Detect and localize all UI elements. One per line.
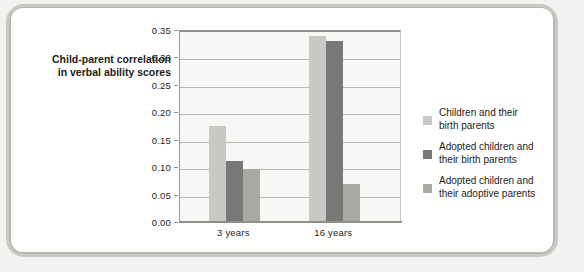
legend-label-line: their birth parents (439, 154, 534, 167)
gridline (180, 87, 400, 88)
bar (326, 41, 343, 222)
y-axis-tick-mark (174, 140, 178, 141)
x-axis-tick-label: 16 years (293, 227, 373, 238)
legend-label-line: Adopted children and (439, 175, 535, 188)
legend-item: Adopted children andtheir birth parents (423, 141, 555, 166)
bar (343, 184, 360, 222)
y-axis-tick-label: 0.10 (127, 162, 171, 173)
legend-swatch (423, 116, 432, 125)
y-axis-tick-mark (174, 167, 178, 168)
y-axis-tick-label: 0.20 (127, 107, 171, 118)
y-axis-tick-mark (174, 57, 178, 58)
bar (243, 169, 260, 222)
plot-area (179, 30, 401, 222)
y-axis-tick-mark (174, 30, 178, 31)
bar-group (209, 126, 260, 222)
x-axis-tick-label: 3 years (193, 227, 273, 238)
y-axis-tick-label: 0.30 (127, 52, 171, 63)
legend-swatch (423, 150, 432, 159)
y-axis-tick-label: 0.35 (127, 25, 171, 36)
y-axis-label-line-2: in verbal ability scores (25, 66, 171, 79)
y-axis-tick-mark (174, 195, 178, 196)
chart-legend: Children and theirbirth parentsAdopted c… (423, 107, 555, 209)
y-axis-tick-label: 0.25 (127, 79, 171, 90)
y-axis-tick-label: 0.00 (127, 217, 171, 228)
gridline (180, 59, 400, 60)
y-axis-tick-mark (174, 112, 178, 113)
x-axis-line (179, 221, 402, 223)
legend-item: Children and theirbirth parents (423, 107, 555, 132)
bar (226, 161, 243, 222)
legend-label-line: birth parents (439, 120, 518, 133)
legend-item: Adopted children andtheir adoptive paren… (423, 175, 555, 200)
legend-label: Children and theirbirth parents (439, 107, 518, 132)
chart-card: Child-parent correlation in verbal abili… (9, 6, 555, 254)
legend-label-line: Adopted children and (439, 141, 534, 154)
legend-label: Adopted children andtheir adoptive paren… (439, 175, 535, 200)
bar (209, 126, 226, 222)
legend-label-line: Children and their (439, 107, 518, 120)
y-axis-tick-mark (174, 85, 178, 86)
legend-label-line: their adoptive parents (439, 188, 535, 201)
gridline (180, 114, 400, 115)
bar-group (309, 36, 360, 223)
y-axis-tick-mark (174, 222, 178, 223)
figure-background: Child-parent correlation in verbal abili… (0, 0, 584, 272)
bar (309, 36, 326, 223)
y-axis-tick-label: 0.15 (127, 134, 171, 145)
legend-swatch (423, 184, 432, 193)
legend-label: Adopted children andtheir birth parents (439, 141, 534, 166)
y-axis-tick-label: 0.05 (127, 189, 171, 200)
